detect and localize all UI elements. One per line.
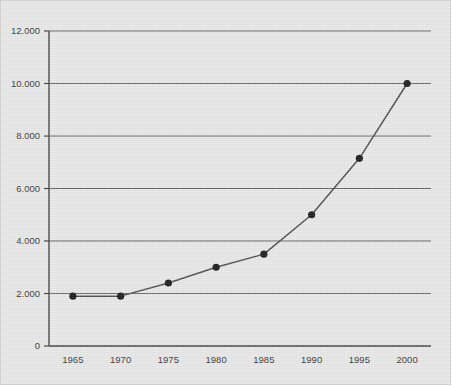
y-axis-tick-group <box>44 31 49 346</box>
x-axis-tick-label: 1995 <box>349 354 370 365</box>
y-axis-tick-label: 8.000 <box>16 130 40 141</box>
x-axis-tick-label: 1975 <box>158 354 179 365</box>
data-point-marker <box>213 264 220 271</box>
x-axis-tick-label: 1980 <box>206 354 227 365</box>
x-axis-tick-label: 1965 <box>62 354 83 365</box>
data-point-marker <box>404 80 411 87</box>
data-point-group <box>69 80 410 300</box>
y-axis-tick-label: 0 <box>35 340 40 351</box>
data-point-marker <box>69 293 76 300</box>
y-axis-tick-label: 6.000 <box>16 183 40 194</box>
data-point-marker <box>308 211 315 218</box>
line-chart: 02.0004.0006.0008.00010.00012.000 196519… <box>1 1 452 386</box>
x-axis-tick-label: 1970 <box>110 354 131 365</box>
data-series-line <box>73 84 407 297</box>
y-axis-tick-label: 4.000 <box>16 235 40 246</box>
y-axis-tick-label: 12.000 <box>11 25 40 36</box>
y-axis-tick-label: 10.000 <box>11 78 40 89</box>
x-axis-tick-label: 1985 <box>253 354 274 365</box>
data-point-marker <box>117 293 124 300</box>
x-axis-label-group: 19651970197519801985199019952000 <box>62 354 417 365</box>
y-axis-tick-label: 2.000 <box>16 288 40 299</box>
gridline-group <box>49 31 431 294</box>
y-axis-label-group: 02.0004.0006.0008.00010.00012.000 <box>11 25 40 351</box>
data-point-marker <box>260 251 267 258</box>
x-axis-tick-label: 2000 <box>397 354 418 365</box>
data-point-marker <box>165 279 172 286</box>
data-point-marker <box>356 155 363 162</box>
x-axis-tick-label: 1990 <box>301 354 322 365</box>
